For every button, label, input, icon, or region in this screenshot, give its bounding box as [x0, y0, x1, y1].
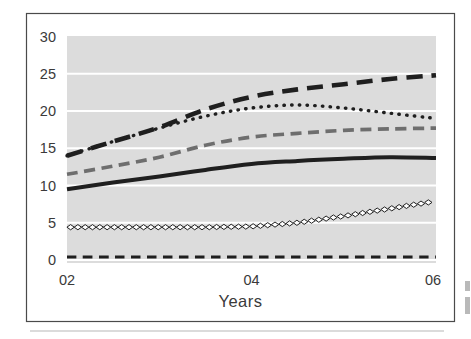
y-tick-label: 0 [48, 252, 56, 268]
y-tick-label: 30 [40, 29, 56, 45]
y-tick-label: 15 [40, 140, 56, 156]
x-tick-label: 04 [243, 272, 259, 288]
scan-artifact-mark [465, 281, 470, 291]
y-tick-label: 25 [40, 66, 56, 82]
chart-figure: 051015202530020406 Years [0, 0, 471, 339]
chart-svg: 051015202530020406 [0, 0, 471, 339]
scan-artifact-mark [465, 297, 470, 314]
x-tick-label: 06 [425, 272, 441, 288]
scan-artifact-line [30, 330, 444, 332]
y-tick-label: 20 [40, 103, 56, 119]
y-tick-label: 10 [40, 178, 56, 194]
y-tick-label: 5 [48, 215, 56, 231]
x-tick-label: 02 [59, 272, 75, 288]
x-axis-title: Years [26, 292, 455, 311]
